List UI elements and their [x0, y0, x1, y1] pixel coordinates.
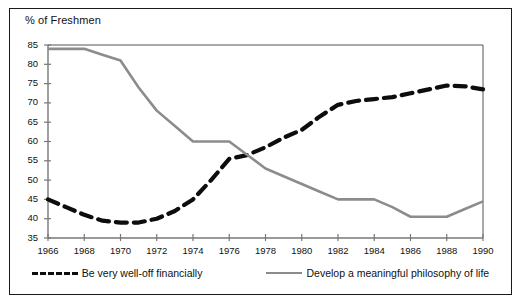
legend-label-financially: Be very well-off financially	[82, 267, 203, 279]
y-tick-label: 50	[18, 174, 38, 185]
dashed-line-icon	[32, 272, 78, 275]
y-tick-label: 60	[18, 135, 38, 146]
x-tick-label: 1980	[285, 245, 319, 256]
x-tick-label: 1970	[104, 245, 138, 256]
chart-legend: Be very well-off financially Develop a m…	[10, 262, 511, 284]
legend-item-financially: Be very well-off financially	[32, 267, 203, 279]
chart-figure: % of Freshmen 3540455055606570758085 196…	[0, 0, 521, 304]
y-tick-label: 85	[18, 39, 38, 50]
series-line	[48, 49, 483, 217]
x-tick-label: 1986	[394, 245, 428, 256]
x-tick-label: 1990	[466, 245, 500, 256]
legend-label-philosophy: Develop a meaningful philosophy of life	[306, 267, 489, 279]
y-tick-label: 75	[18, 77, 38, 88]
x-tick-label: 1988	[430, 245, 464, 256]
x-tick-label: 1966	[31, 245, 65, 256]
x-tick-label: 1976	[212, 245, 246, 256]
y-tick-label: 45	[18, 193, 38, 204]
y-tick-label: 80	[18, 58, 38, 69]
x-tick-label: 1968	[67, 245, 101, 256]
y-tick-label: 35	[18, 232, 38, 243]
line-chart-plot	[0, 0, 521, 304]
x-tick-label: 1974	[176, 245, 210, 256]
legend-item-philosophy: Develop a meaningful philosophy of life	[266, 267, 489, 279]
solid-line-icon	[266, 272, 302, 274]
x-tick-label: 1982	[321, 245, 355, 256]
y-tick-label: 55	[18, 154, 38, 165]
series-line	[48, 86, 483, 223]
x-tick-label: 1972	[140, 245, 174, 256]
x-tick-label: 1984	[357, 245, 391, 256]
y-tick-label: 65	[18, 116, 38, 127]
y-tick-label: 70	[18, 96, 38, 107]
x-tick-label: 1978	[249, 245, 283, 256]
y-tick-label: 40	[18, 212, 38, 223]
